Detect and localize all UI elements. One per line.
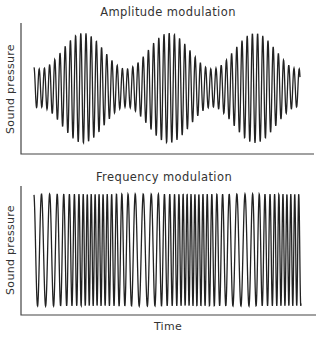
modulation-diagram: Amplitude modulation Sound pressure Freq… xyxy=(0,0,324,337)
fm-chart: Frequency modulation Sound pressure Time xyxy=(4,170,316,333)
fm-x-axis-label: Time xyxy=(153,320,182,333)
am-y-axis-label: Sound pressure xyxy=(4,44,17,134)
fm-waveform xyxy=(34,194,301,306)
fm-title: Frequency modulation xyxy=(96,170,232,184)
fm-y-axis-label: Sound pressure xyxy=(4,205,17,295)
am-title: Amplitude modulation xyxy=(100,5,236,19)
am-chart: Amplitude modulation Sound pressure xyxy=(4,5,314,154)
am-waveform xyxy=(34,33,300,143)
